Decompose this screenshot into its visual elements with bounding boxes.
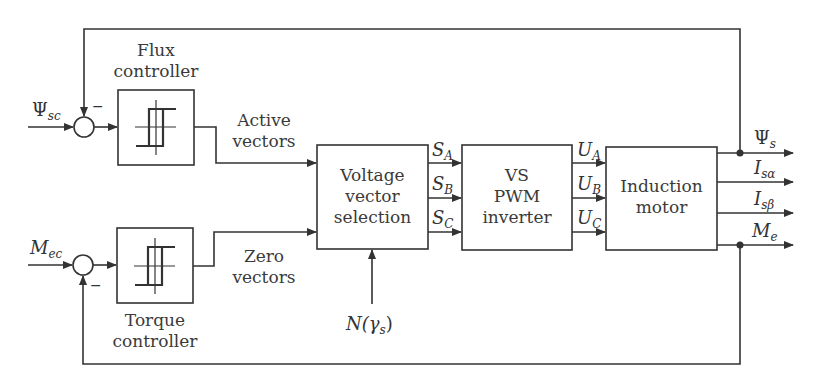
flux-summing-junction [74,117,94,137]
sc-symbol: SC [432,208,454,234]
flux-hysteresis-icon [135,100,176,155]
flux-controller-label: Flux controller [110,40,202,82]
induction-motor-label: Induction motor [606,176,717,218]
active-vectors-line1: Active [222,110,306,131]
inverter-line1: VS [462,165,572,186]
flux-junction-dot [737,150,744,157]
torque-controller-line2: controller [108,331,202,352]
torque-minus-sign: − [90,277,102,293]
inverter-line2: PWM [462,186,572,207]
sa-symbol: SA [432,140,453,166]
torque-controller-line1: Torque [108,310,202,331]
active-vectors-line2: vectors [222,131,306,152]
is-alpha-symbol: Isα [754,158,775,184]
active-vectors-label: Active vectors [222,110,306,152]
inverter-label: VS PWM inverter [462,165,572,228]
torque-controller-label: Torque controller [108,310,202,352]
torque-summing-junction [73,255,93,275]
flux-minus-sign: − [92,98,104,114]
zero-vectors-label: Zero vectors [222,246,306,288]
voltage-vector-selection-label: Voltage vector selection [317,165,428,228]
flux-controller-line1: Flux [110,40,202,61]
vvs-line2: vector [317,186,428,207]
torque-ref-symbol: Mec [30,238,62,264]
flux-controller-line2: controller [110,61,202,82]
sb-symbol: SB [432,174,453,200]
ua-symbol: UA [577,140,601,166]
zero-vectors-line1: Zero [222,246,306,267]
vvs-line1: Voltage [317,165,428,186]
ub-symbol: UB [577,174,601,200]
torque-hysteresis-icon [134,238,175,294]
is-beta-symbol: Isβ [754,189,774,215]
motor-line2: motor [606,197,717,218]
zero-vectors-line2: vectors [222,267,306,288]
flux-ref-symbol: Ψsc [32,100,61,126]
vvs-line3: selection [317,207,428,228]
motor-line1: Induction [606,176,717,197]
psi-s-symbol: Ψs [754,128,776,154]
me-symbol: Me [752,221,778,247]
sector-symbol: N(γs) [346,314,393,340]
torque-junction-dot [737,242,744,249]
uc-symbol: UC [577,208,601,234]
inverter-line3: inverter [462,207,572,228]
